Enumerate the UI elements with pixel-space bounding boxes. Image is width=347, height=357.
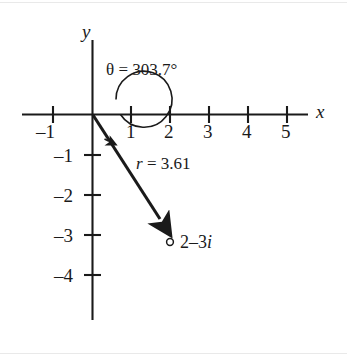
y-axis-label: y [82,22,90,41]
angle-arc-path [116,71,172,127]
complex-plane-figure: x y –1 1 2 3 4 5 –1 –2 –3 –4 θ = 303.7° … [0,0,347,357]
x-tick-label--1: –1 [36,122,55,141]
point-real-part: 2–3 [180,232,207,252]
x-tick-label-1: 1 [126,122,136,141]
radius-value: = 3.61 [143,154,191,173]
y-tick-label--4: –4 [54,266,73,285]
radius-annotation: r = 3.61 [136,155,190,172]
point-annotation: 2–3i [180,233,212,251]
x-axis-label: x [316,102,324,121]
radius-symbol: r [136,154,143,173]
y-axis [84,40,101,320]
y-tick-label--1: –1 [54,146,73,165]
x-tick-label-2: 2 [164,122,174,141]
x-tick-label-4: 4 [242,122,252,141]
angle-annotation: θ = 303.7° [106,61,177,78]
angle-arc [105,71,172,141]
y-tick-label--2: –2 [54,186,73,205]
plot-canvas [0,0,347,357]
y-tick-label--3: –3 [54,226,73,245]
point-marker-2-minus-3i [167,239,174,246]
point-imaginary-unit: i [207,232,212,252]
x-tick-label-5: 5 [281,122,291,141]
x-tick-label-3: 3 [203,122,213,141]
